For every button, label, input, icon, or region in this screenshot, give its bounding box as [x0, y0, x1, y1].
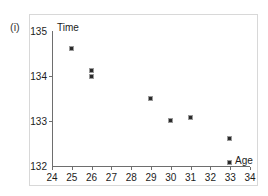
x-tick-label: 31: [181, 172, 201, 183]
y-tick: [49, 121, 53, 122]
y-tick-label: 135: [23, 26, 47, 37]
x-tick: [210, 167, 211, 170]
data-point: [89, 68, 94, 73]
x-tick: [52, 167, 53, 170]
scatter-plot-screenshot: (i) Time Age 2425262728293031323334 1321…: [0, 0, 268, 196]
data-point: [227, 160, 232, 165]
x-tick: [151, 167, 152, 170]
x-tick: [131, 167, 132, 170]
x-tick-label: 32: [200, 172, 220, 183]
y-axis-line: [52, 31, 53, 167]
x-tick: [92, 167, 93, 170]
data-point: [227, 136, 232, 141]
x-tick: [111, 167, 112, 170]
x-tick: [191, 167, 192, 170]
data-point: [168, 118, 173, 123]
plot-area: Time Age 2425262728293031323334 13213313…: [0, 0, 268, 196]
data-point: [69, 46, 74, 51]
x-tick: [72, 167, 73, 170]
y-tick: [49, 76, 53, 77]
x-tick-label: 27: [101, 172, 121, 183]
y-tick-label: 132: [23, 161, 47, 172]
x-tick: [171, 167, 172, 170]
x-tick: [250, 167, 251, 170]
y-tick-label: 134: [23, 71, 47, 82]
x-tick-label: 29: [141, 172, 161, 183]
data-point: [188, 115, 193, 120]
data-point: [148, 96, 153, 101]
x-axis-title: Age: [235, 155, 253, 166]
x-tick-label: 34: [240, 172, 260, 183]
x-tick-label: 24: [42, 172, 62, 183]
y-tick-label: 133: [23, 116, 47, 127]
y-axis-title: Time: [57, 22, 79, 33]
x-tick-label: 33: [220, 172, 240, 183]
data-point: [89, 74, 94, 79]
x-tick-label: 28: [121, 172, 141, 183]
x-tick-label: 25: [62, 172, 82, 183]
x-tick-label: 26: [82, 172, 102, 183]
x-tick: [230, 167, 231, 170]
x-tick-label: 30: [161, 172, 181, 183]
